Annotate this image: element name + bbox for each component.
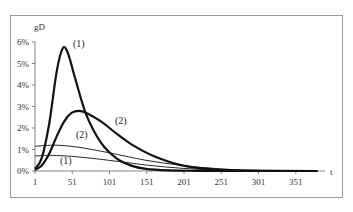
x-tick-label: 301 <box>252 177 266 187</box>
curves <box>35 47 317 171</box>
y-tick-label: 0% <box>17 166 30 176</box>
x-tick-label: 151 <box>140 177 154 187</box>
x-ticks: 151101151201251301351 <box>33 171 303 187</box>
label-thin-1: (1) <box>60 155 72 167</box>
x-tick-label: 351 <box>289 177 303 187</box>
x-tick-label: 101 <box>103 177 117 187</box>
y-tick-label: 2% <box>17 123 30 133</box>
x-axis-label: t <box>330 167 333 177</box>
label-thin-2: (2) <box>76 129 88 141</box>
curve-1-bold <box>35 47 317 171</box>
curve-2-bold <box>35 111 317 171</box>
y-tick-label: 5% <box>17 59 30 69</box>
chart-svg: 0%1%2%3%4%5%6% 151101151201251301351 gD … <box>0 0 353 212</box>
x-tick-label: 201 <box>177 177 191 187</box>
x-tick-label: 51 <box>68 177 77 187</box>
x-tick-label: 251 <box>215 177 229 187</box>
y-tick-label: 4% <box>17 80 30 90</box>
y-tick-label: 3% <box>17 102 30 112</box>
y-ticks: 0%1%2%3%4%5%6% <box>17 37 35 176</box>
y-tick-label: 1% <box>17 145 30 155</box>
curve-2-thin <box>35 145 317 171</box>
y-axis-label: gD <box>34 22 46 32</box>
x-tick-label: 1 <box>33 177 38 187</box>
label-thick-2: (2) <box>115 115 127 127</box>
label-thick-1: (1) <box>73 38 85 50</box>
y-tick-label: 6% <box>17 37 30 47</box>
